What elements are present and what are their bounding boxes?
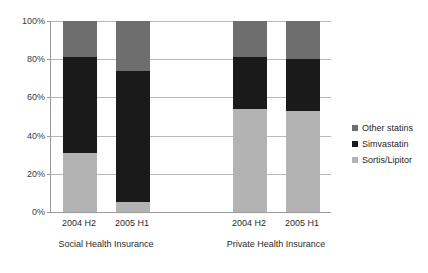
legend-item-sortis-lipitor[interactable]: Sortis/Lipitor — [352, 152, 428, 168]
plot-area: 100%80%60%40%20%0% — [50, 21, 330, 212]
y-axis-label-60: 60% — [27, 93, 45, 102]
y-axis-tick-20 — [47, 174, 51, 175]
y-axis-label-0: 0% — [32, 208, 45, 217]
legend-swatch-icon — [352, 125, 358, 131]
chart-title — [0, 21, 1, 22]
stacked-bar-chart: 100%80%60%40%20%0% 2004 H2 2005 H1 2004 … — [0, 0, 428, 273]
legend-item-other-statins[interactable]: Other statins — [352, 120, 428, 136]
bar-segment-other-statins — [116, 21, 150, 71]
bar-private-health-insurance-2005-h1 — [286, 21, 320, 212]
category-label-private-2005h1: 2005 H1 — [262, 219, 342, 228]
legend-swatch-icon — [352, 141, 358, 147]
legend-item-label: Other statins — [362, 124, 413, 133]
legend-swatch-icon — [352, 157, 358, 163]
bar-segment-sortis-lipitor — [286, 111, 320, 212]
y-axis-tick-0 — [47, 212, 51, 213]
y-axis-label-80: 80% — [27, 55, 45, 64]
bar-private-health-insurance-2004-h2 — [233, 21, 267, 212]
bar-segment-simvastatin — [63, 57, 97, 153]
y-axis-label-20: 20% — [27, 169, 45, 178]
y-axis-tick-40 — [47, 136, 51, 137]
bar-segment-sortis-lipitor — [233, 109, 267, 212]
group-label-private-health-insurance: Private Health Insurance — [191, 240, 361, 249]
legend-item-label: Simvastatin — [362, 140, 409, 149]
y-axis-tick-100 — [47, 21, 51, 22]
y-axis-label-40: 40% — [27, 131, 45, 140]
legend-item-label: Sortis/Lipitor — [362, 156, 412, 165]
bar-segment-sortis-lipitor — [63, 153, 97, 212]
bar-segment-simvastatin — [233, 57, 267, 109]
bar-segment-simvastatin — [116, 71, 150, 203]
group-label-social-health-insurance: Social Health Insurance — [21, 240, 191, 249]
bar-social-health-insurance-2005-h1 — [116, 21, 150, 212]
y-axis-tick-80 — [47, 59, 51, 60]
bar-social-health-insurance-2004-h2 — [63, 21, 97, 212]
category-label-social-2005h1: 2005 H1 — [92, 219, 172, 228]
legend-item-simvastatin[interactable]: Simvastatin — [352, 136, 428, 152]
y-axis-label-100: 100% — [22, 17, 45, 26]
y-axis-tick-60 — [47, 97, 51, 98]
bar-segment-simvastatin — [286, 59, 320, 111]
bar-segment-other-statins — [286, 21, 320, 59]
bar-segment-other-statins — [63, 21, 97, 57]
bar-segment-sortis-lipitor — [116, 202, 150, 212]
bar-segment-other-statins — [233, 21, 267, 57]
legend: Other statinsSimvastatinSortis/Lipitor — [352, 120, 428, 168]
gridline-0 — [51, 212, 331, 213]
